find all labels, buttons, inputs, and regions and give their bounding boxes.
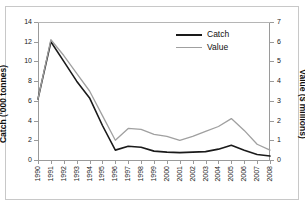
- x-tick: [244, 161, 245, 164]
- x-tick-label: 1995: [98, 166, 105, 182]
- y-tick-label-left: 0: [28, 156, 32, 163]
- y-tick-left: [34, 42, 38, 43]
- y-tick-right: [270, 61, 274, 62]
- y-tick-left: [34, 81, 38, 82]
- x-tick-label: 1991: [47, 166, 54, 182]
- legend-swatch-catch: [176, 34, 202, 36]
- y-axis-left-title: Catch ('000 tonnes): [0, 64, 8, 142]
- y-axis-right-title: Value ($ millions): [298, 69, 305, 138]
- legend-label-value: Value: [207, 41, 228, 54]
- y-tick-label-right: 4: [277, 77, 281, 84]
- x-tick: [167, 161, 168, 164]
- y-tick-label-right: 1: [277, 136, 281, 143]
- y-tick-label-right: 0: [277, 156, 281, 163]
- x-tick-label: 2006: [240, 166, 247, 182]
- x-tick: [141, 161, 142, 164]
- y-tick-left: [34, 61, 38, 62]
- x-tick-label: 2003: [202, 166, 209, 182]
- y-tick-label-right: 6: [277, 38, 281, 45]
- chart-legend: Catch Value: [176, 28, 229, 54]
- y-tick-label-right: 7: [277, 18, 281, 25]
- y-tick-label-right: 5: [277, 57, 281, 64]
- x-tick-label: 1992: [60, 166, 67, 182]
- plot-area: [38, 22, 270, 160]
- legend-item-catch: Catch: [176, 28, 229, 41]
- x-tick-label: 2001: [176, 166, 183, 182]
- y-tick-right: [270, 22, 274, 23]
- y-tick-left: [34, 22, 38, 23]
- x-tick: [64, 161, 65, 164]
- x-tick-label: 1998: [137, 166, 144, 182]
- x-tick-label: 2004: [214, 166, 221, 182]
- legend-label-catch: Catch: [207, 28, 229, 41]
- x-tick: [51, 161, 52, 164]
- x-tick: [218, 161, 219, 164]
- y-tick-right: [270, 42, 274, 43]
- x-tick: [38, 161, 39, 164]
- y-tick-left: [34, 101, 38, 102]
- x-tick: [270, 161, 271, 164]
- y-tick-left: [34, 121, 38, 122]
- x-tick: [193, 161, 194, 164]
- x-tick: [115, 161, 116, 164]
- x-tick-label: 1996: [111, 166, 118, 182]
- chart-figure: Catch ('000 tonnes) Value ($ millions) 0…: [0, 0, 305, 207]
- y-tick-label-right: 2: [277, 117, 281, 124]
- x-tick: [77, 161, 78, 164]
- x-tick-label: 1997: [124, 166, 131, 182]
- series-line-value: [38, 40, 270, 150]
- x-tick-label: 2002: [189, 166, 196, 182]
- x-tick: [180, 161, 181, 164]
- x-tick: [154, 161, 155, 164]
- x-tick-label: 1990: [34, 166, 41, 182]
- y-tick-label-left: 2: [28, 136, 32, 143]
- series-lines: [38, 22, 270, 160]
- x-tick: [206, 161, 207, 164]
- legend-item-value: Value: [176, 41, 229, 54]
- y-tick-label-left: 12: [24, 38, 32, 45]
- x-tick: [128, 161, 129, 164]
- legend-swatch-value: [176, 47, 202, 48]
- x-tick-label: 2007: [253, 166, 260, 182]
- x-tick: [90, 161, 91, 164]
- y-tick-label-left: 10: [24, 57, 32, 64]
- x-tick-label: 2005: [227, 166, 234, 182]
- y-tick-label-left: 8: [28, 77, 32, 84]
- y-tick-label-left: 6: [28, 97, 32, 104]
- x-tick-label: 2000: [163, 166, 170, 182]
- y-tick-right: [270, 81, 274, 82]
- x-tick: [102, 161, 103, 164]
- x-tick-label: 1999: [150, 166, 157, 182]
- y-tick-label-left: 14: [24, 18, 32, 25]
- y-tick-right: [270, 101, 274, 102]
- y-tick-right: [270, 121, 274, 122]
- x-tick: [231, 161, 232, 164]
- y-tick-right: [270, 140, 274, 141]
- y-tick-label-right: 3: [277, 97, 281, 104]
- x-tick-label: 1993: [73, 166, 80, 182]
- x-tick: [257, 161, 258, 164]
- y-tick-label-left: 4: [28, 117, 32, 124]
- y-tick-left: [34, 140, 38, 141]
- x-tick-label: 2008: [266, 166, 273, 182]
- series-line-catch: [38, 42, 270, 156]
- x-tick-label: 1994: [86, 166, 93, 182]
